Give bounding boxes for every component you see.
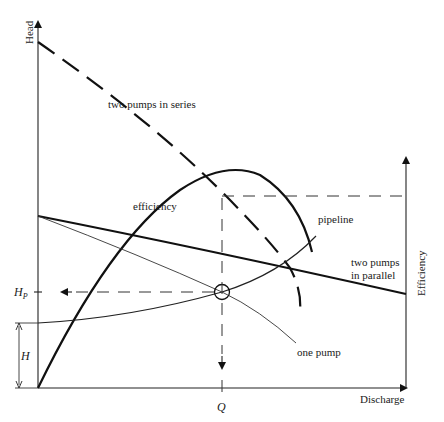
one-pump-curve bbox=[38, 216, 296, 343]
pump-characteristic-diagram: Head Discharge Efficiency two pumps in s… bbox=[0, 0, 444, 422]
pipeline-label: pipeline bbox=[318, 213, 354, 225]
parallel-label-1: two pumps bbox=[351, 256, 400, 268]
one-pump-label: one pump bbox=[297, 346, 341, 358]
parallel-label-2: in parallel bbox=[351, 269, 395, 281]
static-head-label: H bbox=[20, 349, 31, 363]
series-curve bbox=[38, 42, 300, 312]
series-curve-label: two pumps in series bbox=[108, 98, 196, 110]
efficiency-axis-label: Efficiency bbox=[415, 250, 427, 296]
discharge-axis-label: Discharge bbox=[360, 393, 405, 405]
operating-discharge-label: Q bbox=[217, 400, 226, 414]
head-axis-label: Head bbox=[23, 20, 35, 44]
operating-head-label: HP bbox=[13, 285, 28, 301]
efficiency-curve-label: efficiency bbox=[133, 200, 177, 212]
operating-head-subscript: P bbox=[22, 292, 28, 301]
